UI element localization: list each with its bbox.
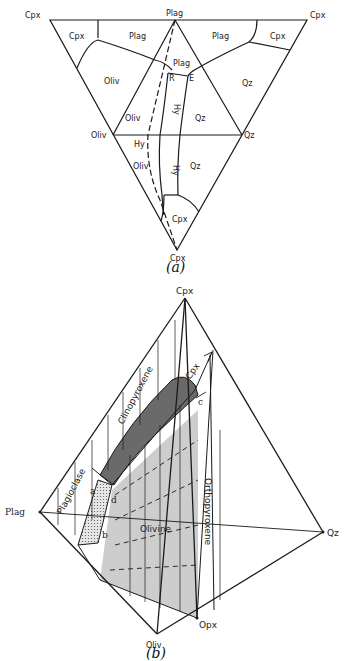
field-a-oliv-left: Oliv (104, 77, 120, 86)
figure-a-labels: Cpx Plag Cpx Oliv Qz Cpx Cpx Plag Plag C… (25, 9, 326, 275)
point-a-r: R (169, 74, 175, 83)
label-a-qz-right-vertex: Qz (244, 131, 255, 140)
boundary-cpx-qz-lower (178, 195, 199, 212)
label-b-olivine: Olivine (140, 524, 172, 534)
phase-diagram-figure: Cpx Plag Cpx Oliv Qz Cpx Cpx Plag Plag C… (0, 0, 350, 661)
label-b-plagioclase: Plagioclase (55, 466, 88, 516)
field-a-hy-vertical-upper: Hy (172, 104, 181, 115)
boundary-hy-left (159, 73, 168, 215)
point-b-c: c (198, 397, 203, 407)
field-a-oliv-lower: Oliv (133, 162, 149, 171)
field-a-cpx-lower: Cpx (172, 215, 188, 224)
boundary-oliv-upper (77, 40, 172, 70)
plagioclase-plane-edge (78, 545, 100, 580)
field-a-qz-lower: Qz (190, 162, 201, 171)
field-a-plag-upper-right: Plag (212, 32, 229, 41)
label-a-cpx-top-right: Cpx (310, 11, 326, 20)
label-a-oliv-left-vertex: Oliv (91, 131, 107, 140)
field-a-cpx-upper-left: Cpx (69, 32, 85, 41)
field-a-qz-right: Qz (242, 79, 253, 88)
point-b-d: d (111, 495, 117, 505)
label-a-cpx-top-left: Cpx (25, 11, 41, 20)
figure-b-tetrahedron (39, 298, 325, 634)
field-a-oliv-inner: Oliv (125, 114, 141, 123)
field-a-hy-lower: Hy (134, 140, 145, 149)
caption-a: (a) (166, 259, 185, 275)
point-a-e: E (189, 74, 194, 83)
label-a-plag-top: Plag (166, 9, 183, 18)
field-a-hy-vertical-lower: Hy (171, 165, 180, 176)
boundary-cpx-qz-right (249, 42, 290, 50)
label-b-cpx-inner: Cpx (183, 361, 202, 381)
inner-triangle-right-edge (175, 20, 242, 135)
field-a-plag-center: Plag (173, 59, 190, 68)
boundary-cpx-plag-right (249, 20, 257, 42)
label-b-opx: Opx (199, 620, 218, 630)
label-b-orthopyroxene: Orthopyroxene (203, 478, 213, 546)
field-a-qz-inner: Qz (195, 114, 206, 123)
caption-b: (b) (146, 645, 166, 661)
label-b-cpx-top: Cpx (176, 286, 194, 296)
field-a-cpx-upper-right: Cpx (270, 32, 286, 41)
point-b-a: a (90, 486, 96, 496)
label-b-qz-right: Qz (327, 528, 339, 538)
label-b-plag-left: Plag (5, 507, 25, 517)
point-b-b: b (102, 530, 108, 540)
field-a-plag-upper-left: Plag (129, 32, 146, 41)
